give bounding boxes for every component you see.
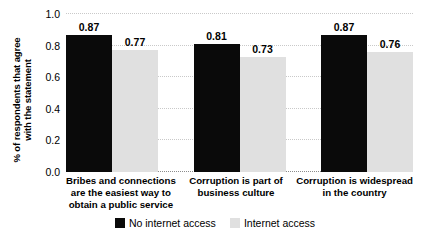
y-axis-tick-label: 1.0 — [45, 8, 60, 20]
plot-area: 0.00.20.40.60.81.0 0.870.770.810.730.870… — [66, 14, 413, 172]
bar[interactable]: 0.87 — [321, 35, 367, 172]
y-axis-tick-label: 0.8 — [45, 40, 60, 52]
x-axis-category-labels: Bribes and connections are the easiest w… — [66, 175, 413, 211]
bar-slot: 0.73 — [240, 14, 286, 172]
bar-slot: 0.87 — [66, 14, 112, 172]
y-axis-tick-label: 0.2 — [45, 134, 60, 146]
bar-groups: 0.870.770.810.730.870.76 — [66, 14, 413, 172]
legend-label: No internet access — [129, 217, 216, 229]
bar-value-label: 0.77 — [125, 36, 145, 48]
chart-legend: No internet accessInternet access — [0, 217, 430, 229]
x-axis-category-label: Corruption is part of business culture — [189, 175, 283, 211]
grouped-bar-chart: % of respondents that agree with the sta… — [0, 0, 430, 239]
x-axis-category-label: Bribes and connections are the easiest w… — [66, 175, 176, 211]
bar-group: 0.810.73 — [194, 14, 286, 172]
bar-slot: 0.76 — [367, 14, 413, 172]
legend-item[interactable]: Internet access — [230, 217, 315, 229]
bar-value-label: 0.87 — [334, 21, 354, 33]
bar-slot: 0.81 — [194, 14, 240, 172]
bar[interactable]: 0.87 — [66, 35, 112, 172]
bar-slot: 0.77 — [112, 14, 158, 172]
bar-value-label: 0.81 — [206, 30, 226, 42]
legend-swatch-icon — [115, 218, 125, 228]
y-axis-title-text: % of respondents that agree with the sta… — [11, 37, 34, 162]
y-axis-tick-label: 0.6 — [45, 71, 60, 83]
legend-label: Internet access — [244, 217, 315, 229]
bar[interactable]: 0.73 — [240, 57, 286, 172]
bar-group: 0.870.77 — [66, 14, 158, 172]
bar-slot: 0.87 — [321, 14, 367, 172]
y-axis-tick-label: 0.4 — [45, 103, 60, 115]
legend-item[interactable]: No internet access — [115, 217, 216, 229]
legend-swatch-icon — [230, 218, 240, 228]
bar-group: 0.870.76 — [321, 14, 413, 172]
bar[interactable]: 0.77 — [112, 50, 158, 172]
bar[interactable]: 0.81 — [194, 44, 240, 172]
bar-value-label: 0.73 — [252, 43, 272, 55]
x-axis-category-label: Corruption is widespread in the country — [296, 175, 413, 211]
bar-value-label: 0.76 — [380, 38, 400, 50]
bar[interactable]: 0.76 — [367, 52, 413, 172]
bar-value-label: 0.87 — [79, 21, 99, 33]
y-axis-tick-label: 0.0 — [45, 166, 60, 178]
y-axis-title: % of respondents that agree with the sta… — [6, 15, 38, 185]
